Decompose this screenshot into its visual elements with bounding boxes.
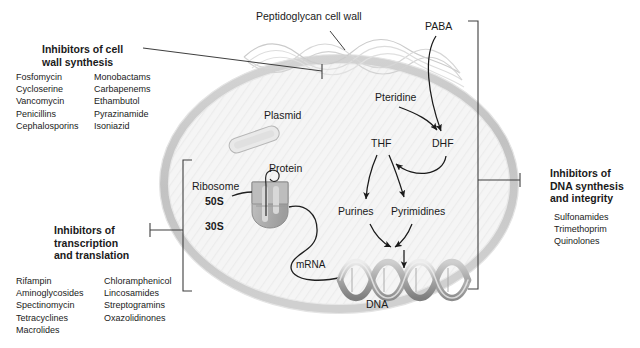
label-protein: Protein — [269, 163, 302, 174]
panel-dna-heading-line1: Inhibitors of — [550, 167, 624, 180]
drug-item: Rifampin — [16, 275, 84, 287]
drug-item: Ethambutol — [94, 95, 151, 107]
panel-transcription-heading: Inhibitors of transcription and translat… — [54, 224, 129, 262]
drug-item: Fosfomycin — [16, 71, 79, 83]
panel-cell-wall-heading-line2: wall synthesis — [42, 56, 123, 69]
drug-item: Oxazolidinones — [104, 312, 172, 324]
drug-item: Sulfonamides — [554, 211, 609, 223]
panel-cell-wall-heading-line1: Inhibitors of cell — [42, 43, 123, 56]
label-dna: DNA — [366, 299, 388, 310]
drug-item: Cycloserine — [16, 83, 79, 95]
drug-item: Isoniazid — [94, 120, 151, 132]
label-50s-subunit: 50S — [205, 196, 224, 207]
label-purines: Purines — [338, 206, 374, 217]
panel-transcription-drugs-col1: Rifampin Aminoglycosides Spectinomycin T… — [16, 275, 84, 336]
panel-dna-drugs-col1: Sulfonamides Trimethoprim Quinolones — [554, 211, 609, 248]
label-ribosome: Ribosome — [192, 181, 239, 192]
label-plasmid: Plasmid — [264, 110, 301, 121]
drug-item: Chloramphenicol — [104, 275, 172, 287]
panel-dna-heading-line3: and integrity — [550, 192, 624, 205]
label-30s-subunit: 30S — [205, 221, 224, 232]
panel-dna-heading: Inhibitors of DNA synthesis and integrit… — [550, 167, 624, 205]
ribosome-shape — [252, 182, 288, 228]
drug-item: Tetracyclines — [16, 312, 84, 324]
drug-item: Streptogramins — [104, 299, 172, 311]
label-mrna: mRNA — [296, 260, 325, 270]
label-paba: PABA — [425, 21, 452, 32]
panel-cell-wall-drugs-col2: Monobactams Carbapenems Ethambutol Pyraz… — [94, 71, 151, 132]
drug-item: Spectinomycin — [16, 299, 84, 311]
drug-item: Trimethoprim — [554, 223, 609, 235]
drug-item: Macrolides — [16, 324, 84, 336]
label-pteridine: Pteridine — [375, 92, 416, 103]
label-peptidoglycan-cell-wall: Peptidoglycan cell wall — [256, 11, 362, 22]
panel-cell-wall-heading: Inhibitors of cell wall synthesis — [42, 43, 123, 68]
drug-item: Pyrazinamide — [94, 108, 151, 120]
drug-item: Monobactams — [94, 71, 151, 83]
panel-dna-heading-line2: DNA synthesis — [550, 180, 624, 193]
drug-item: Vancomycin — [16, 95, 79, 107]
drug-item: Lincosamides — [104, 287, 172, 299]
label-thf: THF — [371, 138, 391, 149]
label-dhf: DHF — [432, 138, 454, 149]
panel-transcription-drugs-col2: Chloramphenicol Lincosamides Streptogram… — [104, 275, 172, 324]
drug-item: Aminoglycosides — [16, 287, 84, 299]
label-pyrimidines: Pyrimidines — [391, 206, 445, 217]
panel-transcription-heading-line2: transcription — [54, 237, 129, 250]
panel-cell-wall-drugs-col1: Fosfomycin Cycloserine Vancomycin Penici… — [16, 71, 79, 132]
drug-item: Carbapenems — [94, 83, 151, 95]
panel-transcription-heading-line3: and translation — [54, 249, 129, 262]
drug-item: Penicillins — [16, 108, 79, 120]
panel-transcription-heading-line1: Inhibitors of — [54, 224, 129, 237]
drug-item: Quinolones — [554, 235, 609, 247]
figure-canvas: Inhibitors of cell wall synthesis Fosfom… — [0, 0, 640, 348]
drug-item: Cephalosporins — [16, 120, 79, 132]
